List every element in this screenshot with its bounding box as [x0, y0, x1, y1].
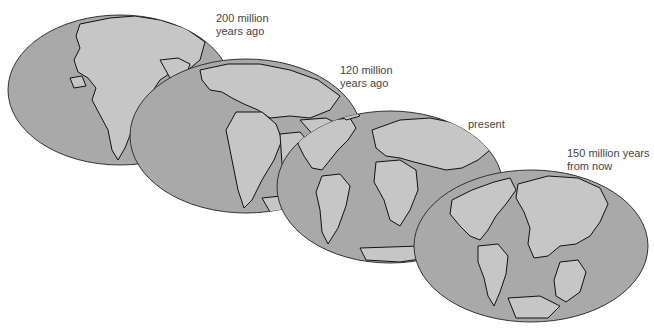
label-line: 200 million	[216, 12, 269, 25]
map-150-million-years-from-now	[414, 170, 648, 322]
label-120-million-years-ago: 120 million years ago	[340, 64, 393, 90]
globe-maps	[0, 0, 654, 328]
label-line: 120 million	[340, 64, 393, 77]
label-line: years ago	[216, 25, 269, 38]
label-150-million-years-from-now: 150 million years from now	[567, 147, 650, 173]
label-line: present	[468, 118, 505, 131]
label-line: 150 million years	[567, 147, 650, 160]
label-200-million-years-ago: 200 million years ago	[216, 12, 269, 38]
continental-drift-figure: 200 million years ago 120 million years …	[0, 0, 654, 328]
label-line: from now	[567, 160, 650, 173]
label-present: present	[468, 118, 505, 131]
label-line: years ago	[340, 77, 393, 90]
